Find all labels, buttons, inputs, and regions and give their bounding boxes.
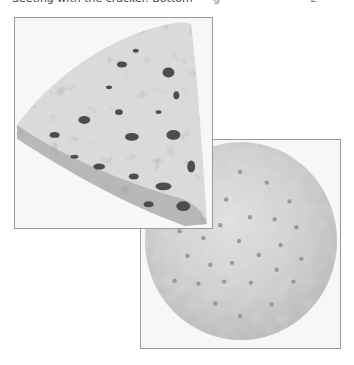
clipped-caption-line: Seeting with the cracker. Bottom g 2 [12, 0, 352, 6]
caption-page-number: 2 [310, 0, 317, 6]
caption-text: Seeting with the cracker. Bottom [12, 0, 193, 5]
caption-fragment: g [213, 0, 220, 6]
blue-cheese-image [14, 17, 213, 229]
blue-cheese-illustration [15, 18, 212, 228]
